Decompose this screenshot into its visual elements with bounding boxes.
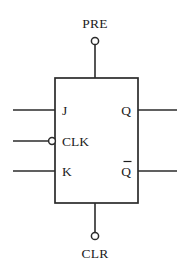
diagram-canvas: PRE J CLK K Q Q bbox=[0, 0, 188, 271]
k-label: K bbox=[62, 164, 72, 179]
q-label: Q bbox=[121, 103, 131, 118]
clk-label: CLK bbox=[62, 134, 89, 149]
q-not-label: Q bbox=[121, 164, 131, 179]
output-q: Q bbox=[121, 103, 177, 118]
input-k: K bbox=[13, 164, 72, 179]
j-label: J bbox=[62, 103, 67, 118]
clr-label: CLR bbox=[81, 246, 108, 261]
input-clk: CLK bbox=[13, 134, 89, 149]
clr-terminal-circle-icon bbox=[91, 232, 98, 239]
pre-terminal-circle-icon bbox=[91, 37, 98, 44]
control-pre: PRE bbox=[82, 16, 108, 78]
pre-label: PRE bbox=[82, 16, 108, 31]
clk-inversion-bubble-icon bbox=[49, 138, 56, 145]
control-clr: CLR bbox=[81, 203, 108, 261]
output-q-not: Q bbox=[121, 162, 177, 180]
jk-flip-flop-diagram: PRE J CLK K Q Q bbox=[0, 0, 188, 271]
